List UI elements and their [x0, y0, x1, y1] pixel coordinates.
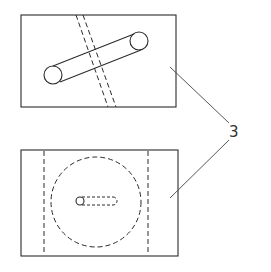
slot: [76, 197, 117, 205]
cylinder-end-left: [44, 66, 62, 84]
slot-end: [76, 197, 84, 205]
technical-drawing: 3: [0, 0, 271, 272]
cylinder-end-right: [130, 32, 148, 50]
bottom-view-frame: [21, 150, 178, 256]
leader-line-bottom: [170, 140, 229, 198]
top-view: [21, 15, 176, 107]
dashed-circle: [51, 157, 141, 247]
slot-end-dashed: [113, 197, 117, 205]
cylinder-edge-bottom: [60, 50, 141, 82]
channel-edge-left: [76, 15, 108, 107]
cylinder: [44, 32, 148, 84]
part-label: 3: [229, 123, 239, 141]
bottom-view: [21, 150, 178, 256]
top-view-frame: [21, 15, 176, 107]
cylinder-edge-top: [53, 34, 134, 66]
leader-line-top: [170, 67, 229, 123]
channel-edge-right: [83, 15, 116, 107]
